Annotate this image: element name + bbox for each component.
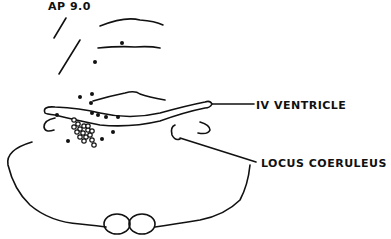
left-hook bbox=[44, 118, 55, 131]
right-hook-1 bbox=[171, 125, 180, 140]
locus-coeruleus-leader bbox=[180, 138, 256, 162]
iv-ventricle-outline bbox=[44, 101, 212, 126]
cerebellar-stroke-2 bbox=[59, 40, 80, 74]
upper-arc-2 bbox=[98, 47, 160, 48]
brainstem-section-drawing bbox=[0, 0, 391, 239]
brainstem-outline-right bbox=[155, 165, 250, 227]
right-hook-2 bbox=[198, 122, 210, 134]
brainstem-outline-left bbox=[8, 142, 106, 227]
cerebellar-stroke-1 bbox=[54, 18, 66, 38]
ventricle-roof-arc bbox=[93, 92, 165, 101]
pyramid-right bbox=[129, 214, 155, 234]
upper-arc-1 bbox=[100, 19, 163, 26]
pyramid-left bbox=[104, 214, 130, 234]
